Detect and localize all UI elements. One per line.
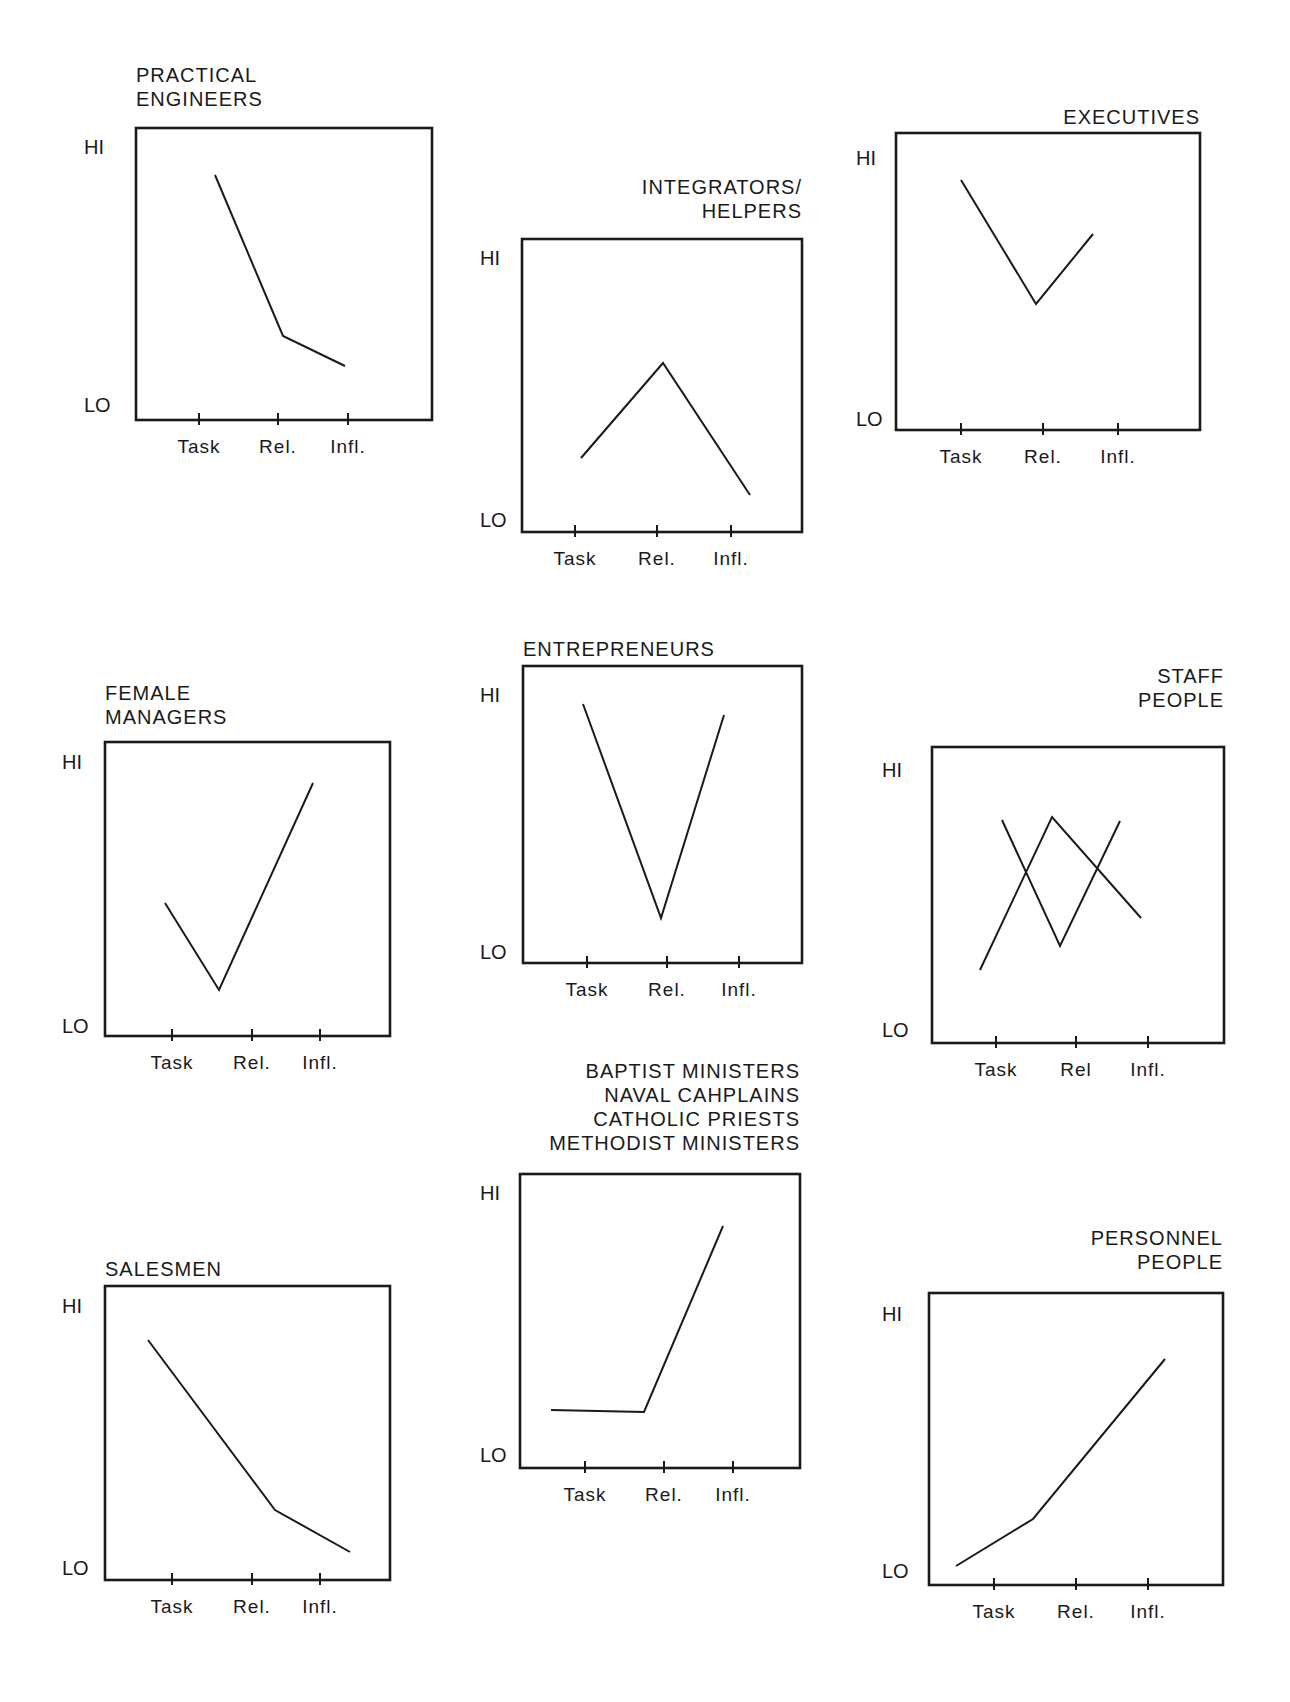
x-tick-label: Rel. [233, 1052, 271, 1073]
series-line-profile [551, 1226, 723, 1412]
plot-frame [522, 239, 802, 532]
chart-executives: EXECUTIVESHILOTaskRel.Infl. [856, 106, 1200, 467]
plot-frame [136, 128, 432, 420]
y-label-lo: LO [84, 394, 111, 416]
y-label-lo: LO [62, 1015, 89, 1037]
chart-staff-people: STAFFPEOPLEHILOTaskRelInfl. [882, 665, 1224, 1080]
x-tick-label: Rel [1060, 1059, 1092, 1080]
x-tick-label: Infl. [721, 979, 757, 1000]
chart-title-line: PRACTICAL [136, 64, 257, 86]
chart-salesmen: SALESMENHILOTaskRel.Infl. [62, 1258, 390, 1617]
chart-title-line: METHODIST MINISTERS [549, 1132, 800, 1154]
x-tick-label: Rel. [233, 1596, 271, 1617]
x-tick-label: Task [553, 548, 596, 569]
chart-title-line: PEOPLE [1137, 1251, 1223, 1273]
x-tick-label: Task [150, 1596, 193, 1617]
x-tick-label: Rel. [645, 1484, 683, 1505]
y-label-hi: HI [480, 684, 500, 706]
plot-frame [520, 1174, 800, 1468]
y-label-lo: LO [882, 1019, 909, 1041]
y-label-lo: LO [856, 408, 883, 430]
series-line-profile [215, 175, 345, 366]
chart-title-line: EXECUTIVES [1063, 106, 1200, 128]
y-label-hi: HI [480, 1182, 500, 1204]
y-label-hi: HI [856, 147, 876, 169]
y-label-hi: HI [62, 751, 82, 773]
x-tick-label: Task [939, 446, 982, 467]
series-line-line-a [1002, 820, 1120, 946]
x-tick-label: Infl. [715, 1484, 751, 1505]
series-line-profile [148, 1340, 350, 1552]
plot-frame [523, 666, 802, 963]
x-tick-label: Task [150, 1052, 193, 1073]
chart-title-line: PEOPLE [1138, 689, 1224, 711]
chart-female-managers: FEMALEMANAGERSHILOTaskRel.Infl. [62, 682, 390, 1073]
y-label-lo: LO [480, 509, 507, 531]
x-tick-label: Rel. [259, 436, 297, 457]
chart-title-line: BAPTIST MINISTERS [586, 1060, 800, 1082]
chart-practical-engineers: PRACTICALENGINEERSHILOTaskRel.Infl. [84, 64, 432, 457]
y-label-hi: HI [882, 759, 902, 781]
chart-title-line: NAVAL CAHPLAINS [604, 1084, 800, 1106]
x-tick-label: Task [565, 979, 608, 1000]
chart-title-line: INTEGRATORS/ [642, 176, 802, 198]
plot-frame [932, 747, 1224, 1043]
chart-title-line: CATHOLIC PRIESTS [593, 1108, 800, 1130]
series-line-profile [583, 704, 724, 918]
series-line-profile [165, 783, 313, 990]
plot-frame [929, 1293, 1223, 1585]
y-label-hi: HI [480, 247, 500, 269]
y-label-lo: LO [882, 1560, 909, 1582]
chart-baptist-ministers-naval-cahplains-catholic-priests-methodist-ministers: BAPTIST MINISTERSNAVAL CAHPLAINSCATHOLIC… [480, 1060, 800, 1505]
chart-integrators-helpers: INTEGRATORS/HELPERSHILOTaskRel.Infl. [480, 176, 802, 569]
x-tick-label: Infl. [713, 548, 749, 569]
y-label-lo: LO [62, 1557, 89, 1579]
x-tick-label: Task [563, 1484, 606, 1505]
y-label-lo: LO [480, 941, 507, 963]
plot-frame [105, 742, 390, 1036]
chart-title-line: HELPERS [702, 200, 802, 222]
x-tick-label: Infl. [330, 436, 366, 457]
y-label-lo: LO [480, 1444, 507, 1466]
x-tick-label: Infl. [1130, 1059, 1166, 1080]
chart-grid: PRACTICALENGINEERSHILOTaskRel.Infl.INTEG… [0, 0, 1290, 1702]
x-tick-label: Infl. [1130, 1601, 1166, 1622]
chart-title-line: ENTREPRENEURS [523, 638, 715, 660]
y-label-hi: HI [62, 1295, 82, 1317]
y-label-hi: HI [882, 1303, 902, 1325]
x-tick-label: Infl. [302, 1596, 338, 1617]
chart-personnel-people: PERSONNELPEOPLEHILOTaskRel.Infl. [882, 1227, 1223, 1622]
chart-title-line: ENGINEERS [136, 88, 263, 110]
series-line-profile [581, 363, 750, 495]
series-line-profile [956, 1359, 1165, 1566]
x-tick-label: Rel. [1057, 1601, 1095, 1622]
chart-title-line: FEMALE [105, 682, 191, 704]
chart-entrepreneurs: ENTREPRENEURSHILOTaskRel.Infl. [480, 638, 802, 1000]
chart-title-line: MANAGERS [105, 706, 227, 728]
plot-frame [896, 133, 1200, 430]
x-tick-label: Task [177, 436, 220, 457]
x-tick-label: Rel. [648, 979, 686, 1000]
plot-frame [105, 1286, 390, 1580]
x-tick-label: Rel. [638, 548, 676, 569]
x-tick-label: Task [974, 1059, 1017, 1080]
chart-title-line: PERSONNEL [1091, 1227, 1223, 1249]
y-label-hi: HI [84, 136, 104, 158]
series-line-profile [961, 180, 1093, 304]
x-tick-label: Infl. [302, 1052, 338, 1073]
x-tick-label: Rel. [1024, 446, 1062, 467]
chart-title-line: STAFF [1157, 665, 1224, 687]
chart-title-line: SALESMEN [105, 1258, 222, 1280]
x-tick-label: Task [972, 1601, 1015, 1622]
x-tick-label: Infl. [1100, 446, 1136, 467]
